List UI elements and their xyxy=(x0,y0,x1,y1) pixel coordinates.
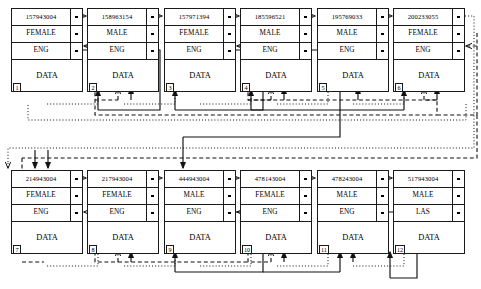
record-node-11[interactable]: 478243004MALEENGDATA11 xyxy=(317,170,389,254)
gender-pointer-cell[interactable] xyxy=(452,188,464,204)
language-pointer-cell[interactable] xyxy=(223,43,235,59)
record-index-badge: 8 xyxy=(89,245,97,254)
record-node-7[interactable]: 214943004FEMALEENGDATA7 xyxy=(11,170,83,254)
record-node-8[interactable]: 217943004FEMALEENGDATA8 xyxy=(87,170,159,254)
gender-pointer-cell[interactable] xyxy=(299,188,311,204)
record-node-3[interactable]: 157971394FEMALEENGDATA3 xyxy=(164,8,236,92)
record-index-badge: 3 xyxy=(166,83,174,92)
record-language-value: ENG xyxy=(262,209,289,216)
record-id-value: 200233055 xyxy=(408,14,451,21)
record-id-value: 444943004 xyxy=(179,176,222,183)
id-pointer-cell[interactable] xyxy=(299,9,311,25)
record-node-10[interactable]: 478143004FEMALEENGDATA10 xyxy=(240,170,312,254)
record-index-badge: 4 xyxy=(242,83,250,92)
gender-pointer-cell[interactable] xyxy=(70,26,82,42)
language-pointer-cell[interactable] xyxy=(452,205,464,221)
record-node-1[interactable]: 157943004FEMALEENGDATA1 xyxy=(11,8,83,92)
pointer-dot-icon xyxy=(304,16,307,19)
id-pointer-cell[interactable] xyxy=(376,9,388,25)
record-data-row: DATA1 xyxy=(12,60,82,93)
record-language-row: ENG xyxy=(88,205,158,222)
record-gender-value: MALE xyxy=(260,30,293,37)
id-pointer-cell[interactable] xyxy=(452,9,464,25)
language-pointer-cell[interactable] xyxy=(452,43,464,59)
record-language-row: ENG xyxy=(318,43,388,60)
record-node-4[interactable]: 185596521MALEENGDATA4 xyxy=(240,8,312,92)
record-node-6[interactable]: 200233055FEMALEENGDATA6 xyxy=(393,8,465,92)
record-gender-value: FEMALE xyxy=(408,30,449,37)
record-id-value: 157943004 xyxy=(26,14,69,21)
gender-pointer-cell[interactable] xyxy=(452,26,464,42)
record-data-value: DATA xyxy=(112,72,134,80)
record-data-value: DATA xyxy=(418,72,440,80)
gender-pointer-cell[interactable] xyxy=(299,26,311,42)
gender-pointer-cell[interactable] xyxy=(223,26,235,42)
language-pointer-cell[interactable] xyxy=(299,43,311,59)
gender-pointer-cell[interactable] xyxy=(223,188,235,204)
record-gender-row: FEMALE xyxy=(12,26,82,43)
language-pointer-cell[interactable] xyxy=(376,43,388,59)
pointer-dot-icon xyxy=(304,178,307,181)
pointer-dot-icon xyxy=(457,33,460,36)
record-gender-row: MALE xyxy=(394,188,464,205)
id-pointer-cell[interactable] xyxy=(452,171,464,187)
record-node-5[interactable]: 195769033MALEENGDATA5 xyxy=(317,8,389,92)
id-pointer-cell[interactable] xyxy=(70,9,82,25)
record-id-row: 478243004 xyxy=(318,171,388,188)
language-pointer-cell[interactable] xyxy=(70,205,82,221)
gender-pointer-cell[interactable] xyxy=(146,26,158,42)
record-index-badge: 2 xyxy=(89,83,97,92)
record-index-badge: 9 xyxy=(166,245,174,254)
gender-pointer-cell[interactable] xyxy=(146,188,158,204)
record-language-row: ENG xyxy=(241,43,311,60)
record-data-row: DATA2 xyxy=(88,60,158,93)
pointer-dot-icon xyxy=(228,178,231,181)
record-gender-row: FEMALE xyxy=(394,26,464,43)
pointer-dot-icon xyxy=(228,33,231,36)
id-pointer-cell[interactable] xyxy=(70,171,82,187)
record-language-row: ENG xyxy=(241,205,311,222)
record-data-value: DATA xyxy=(112,234,134,242)
record-data-value: DATA xyxy=(342,72,364,80)
pointer-dot-icon xyxy=(304,212,307,215)
gender-pointer-cell[interactable] xyxy=(376,188,388,204)
record-node-2[interactable]: 158963154MALEENGDATA2 xyxy=(87,8,159,92)
record-data-value: DATA xyxy=(342,234,364,242)
id-pointer-cell[interactable] xyxy=(299,171,311,187)
id-pointer-cell[interactable] xyxy=(146,171,158,187)
id-pointer-cell[interactable] xyxy=(376,171,388,187)
language-pointer-cell[interactable] xyxy=(299,205,311,221)
pointer-dot-icon xyxy=(75,33,78,36)
record-node-12[interactable]: 517943004MALELASDATA12 xyxy=(393,170,465,254)
language-pointer-cell[interactable] xyxy=(223,205,235,221)
record-data-row: DATA8 xyxy=(88,222,158,255)
id-pointer-cell[interactable] xyxy=(223,9,235,25)
record-node-9[interactable]: 444943004MALEENGDATA9 xyxy=(164,170,236,254)
record-language-row: LAS xyxy=(394,205,464,222)
pointer-dot-icon xyxy=(381,33,384,36)
record-language-row: ENG xyxy=(88,43,158,60)
record-language-value: ENG xyxy=(415,47,442,54)
record-id-row: 478143004 xyxy=(241,171,311,188)
pointer-dot-icon xyxy=(75,212,78,215)
record-gender-row: MALE xyxy=(88,26,158,43)
id-pointer-cell[interactable] xyxy=(223,171,235,187)
gender-pointer-cell[interactable] xyxy=(70,188,82,204)
pointer-dot-icon xyxy=(457,195,460,198)
record-gender-row: FEMALE xyxy=(12,188,82,205)
pointer-dot-icon xyxy=(75,50,78,53)
record-index-badge: 5 xyxy=(319,83,327,92)
language-pointer-cell[interactable] xyxy=(376,205,388,221)
record-language-row: ENG xyxy=(165,43,235,60)
pointer-dot-icon xyxy=(381,16,384,19)
record-data-value: DATA xyxy=(36,72,58,80)
gender-pointer-cell[interactable] xyxy=(376,26,388,42)
pointer-dot-icon xyxy=(75,178,78,181)
language-pointer-cell[interactable] xyxy=(146,43,158,59)
language-pointer-cell[interactable] xyxy=(146,205,158,221)
pointer-dot-icon xyxy=(381,178,384,181)
record-data-row: DATA5 xyxy=(318,60,388,93)
language-pointer-cell[interactable] xyxy=(70,43,82,59)
record-language-row: ENG xyxy=(318,205,388,222)
id-pointer-cell[interactable] xyxy=(146,9,158,25)
